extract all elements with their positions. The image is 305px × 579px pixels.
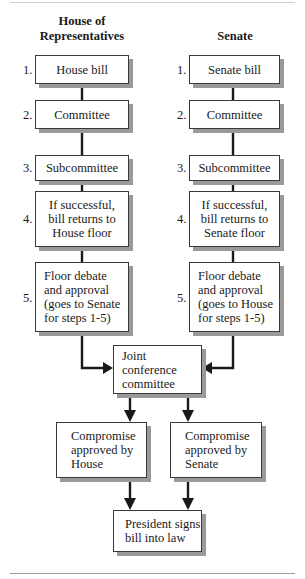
senate-step-4-box: If successful, bill returns to Senate fl… — [189, 191, 280, 247]
house-step-label: House bill — [56, 63, 108, 77]
arrow-down-icon — [182, 410, 194, 422]
compromise-house-box: Compromise approved by House — [56, 422, 147, 478]
house-step-label: Committee — [54, 108, 110, 122]
arrow-down-icon — [124, 410, 136, 422]
senate-step-1-box: Senate bill — [189, 55, 280, 84]
house-step-4-box: If successful, bill returns to House flo… — [35, 191, 129, 247]
joint-conference-box: Joint conference committee — [113, 345, 202, 394]
compromise-house-label: Compromise approved by House — [71, 429, 136, 471]
bottom-rule — [10, 573, 295, 574]
joint-conference-label: Joint conference committee — [122, 349, 201, 391]
senate-step-label: If successful, bill returns to Senate fl… — [201, 198, 268, 240]
house-step-number: 2. — [23, 108, 32, 122]
senate-step-label: Subcommittee — [198, 161, 270, 175]
house-step-label: Subcommittee — [46, 161, 118, 175]
senate-step-5-box: Floor debate and approval (goes to House… — [189, 262, 280, 332]
house-step-2-box: Committee — [35, 100, 129, 129]
president-signs-box: President signs bill into law — [113, 510, 202, 552]
arrow-down-icon — [124, 498, 136, 510]
house-step-number: 4. — [23, 212, 32, 226]
house-step-3-box: Subcommittee — [35, 155, 129, 181]
senate-step-label: Committee — [207, 108, 263, 122]
senate-step-number: 5. — [177, 291, 186, 305]
senate-step-label: Floor debate and approval (goes to House… — [198, 269, 273, 325]
senate-step-2-box: Committee — [189, 100, 280, 129]
compromise-senate-label: Compromise approved by Senate — [185, 429, 250, 471]
house-step-1-box: House bill — [35, 55, 129, 84]
senate-step-3-box: Subcommittee — [189, 155, 280, 181]
senate-step-number: 1. — [177, 63, 186, 77]
house-step-number: 5. — [23, 291, 32, 305]
senate-step-label: Senate bill — [208, 63, 261, 77]
house-step-label: If successful, bill returns to House flo… — [48, 198, 115, 240]
arrow-left-icon — [202, 362, 212, 374]
compromise-senate-box: Compromise approved by Senate — [170, 422, 262, 478]
arrow-right-icon — [103, 362, 113, 374]
senate-step-number: 3. — [177, 161, 186, 175]
arrow-down-icon — [182, 498, 194, 510]
house-step-number: 3. — [23, 161, 32, 175]
house-step-5-box: Floor debate and approval (goes to Senat… — [35, 262, 129, 332]
house-step-label: Floor debate and approval (goes to Senat… — [44, 269, 120, 325]
senate-step-number: 4. — [177, 212, 186, 226]
senate-step-number: 2. — [177, 108, 186, 122]
house-step-number: 1. — [23, 63, 32, 77]
president-signs-label: President signs bill into law — [125, 517, 200, 545]
